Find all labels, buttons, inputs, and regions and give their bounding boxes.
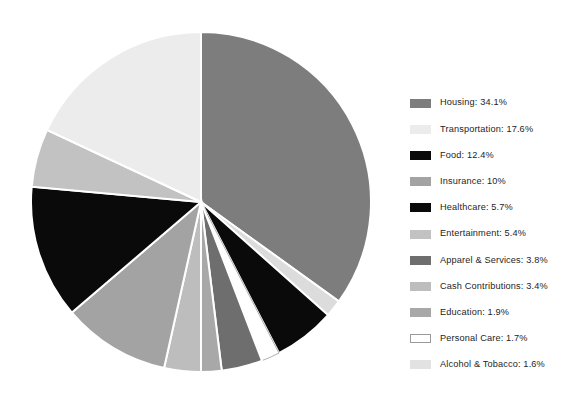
chart-legend: Housing: 34.1%Transportation: 17.6%Food:… — [410, 90, 570, 378]
legend-label-transportation: Transportation: 17.6% — [440, 125, 533, 134]
legend-label-cash-contributions: Cash Contributions: 3.4% — [440, 282, 548, 291]
legend-item-alcohol-and-tobacco[interactable]: Alcohol & Tobacco: 1.6% — [410, 352, 570, 378]
legend-item-apparel-and-services[interactable]: Apparel & Services: 3.8% — [410, 247, 570, 273]
legend-swatch-cash-contributions — [410, 282, 431, 291]
legend-label-insurance: Insurance: 10% — [440, 177, 506, 186]
pie-chart-figure: Housing: 34.1%Transportation: 17.6%Food:… — [0, 0, 570, 395]
legend-swatch-insurance — [410, 177, 431, 186]
legend-label-healthcare: Healthcare: 5.7% — [440, 203, 513, 212]
legend-item-insurance[interactable]: Insurance: 10% — [410, 169, 570, 195]
pie-chart-plot-area — [0, 0, 400, 395]
legend-label-education: Education: 1.9% — [440, 308, 509, 317]
legend-swatch-food — [410, 151, 431, 160]
legend-label-personal-care: Personal Care: 1.7% — [440, 334, 528, 343]
legend-swatch-education — [410, 308, 431, 317]
legend-swatch-personal-care — [410, 334, 431, 343]
legend-item-healthcare[interactable]: Healthcare: 5.7% — [410, 195, 570, 221]
legend-swatch-apparel-and-services — [410, 256, 431, 265]
legend-item-food[interactable]: Food: 12.4% — [410, 142, 570, 168]
legend-item-cash-contributions[interactable]: Cash Contributions: 3.4% — [410, 273, 570, 299]
pie-chart-svg — [0, 0, 400, 395]
legend-swatch-transportation — [410, 125, 431, 134]
legend-swatch-alcohol-and-tobacco — [410, 360, 431, 369]
legend-item-personal-care[interactable]: Personal Care: 1.7% — [410, 326, 570, 352]
legend-item-transportation[interactable]: Transportation: 17.6% — [410, 116, 570, 142]
legend-item-education[interactable]: Education: 1.9% — [410, 300, 570, 326]
legend-swatch-entertainment — [410, 230, 431, 239]
legend-label-apparel-and-services: Apparel & Services: 3.8% — [440, 256, 548, 265]
legend-label-housing: Housing: 34.1% — [440, 98, 507, 107]
legend-swatch-healthcare — [410, 203, 431, 212]
legend-label-entertainment: Entertainment: 5.4% — [440, 229, 526, 238]
legend-label-food: Food: 12.4% — [440, 151, 494, 160]
legend-item-entertainment[interactable]: Entertainment: 5.4% — [410, 221, 570, 247]
legend-item-housing[interactable]: Housing: 34.1% — [410, 90, 570, 116]
legend-swatch-housing — [410, 99, 431, 108]
legend-label-alcohol-and-tobacco: Alcohol & Tobacco: 1.6% — [440, 360, 545, 369]
